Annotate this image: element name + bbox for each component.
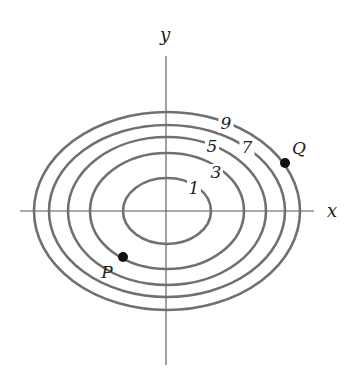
point-q-label: Q: [292, 138, 306, 158]
contour-label-1: 1: [189, 178, 200, 198]
contour-label-7: 7: [242, 137, 253, 157]
x-axis-label: x: [327, 200, 337, 221]
point-q-marker: [280, 158, 290, 168]
point-p-marker: [118, 252, 128, 262]
y-axis-label: y: [159, 24, 171, 45]
contour-label-5: 5: [207, 136, 218, 156]
contour-diagram: x y 13579 PQ: [0, 0, 357, 386]
contour-label-9: 9: [221, 113, 232, 133]
point-p-label: P: [100, 262, 113, 282]
contour-label-3: 3: [211, 162, 222, 182]
contour-labels: 13579: [187, 113, 255, 198]
